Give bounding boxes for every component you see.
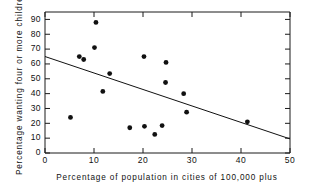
x-tick-label-50: 50 [285, 155, 295, 165]
x-axis-title: Percentage of population in cities of 10… [56, 173, 277, 182]
y-tick-label-80: 80 [31, 29, 41, 39]
data-point [107, 71, 112, 76]
data-point [142, 54, 147, 59]
data-point [160, 123, 165, 128]
plot-canvas: 0102030405060708090 01020304050 Percenta… [0, 0, 309, 190]
data-point [142, 124, 147, 129]
data-point [181, 91, 186, 96]
data-point [245, 119, 250, 124]
y-tick-label-70: 70 [31, 43, 41, 53]
data-point [184, 110, 189, 115]
y-tick-label-30: 30 [31, 103, 41, 113]
data-point [81, 57, 86, 62]
data-points-group [68, 20, 250, 137]
x-tick-label-0: 0 [42, 155, 47, 165]
data-point [94, 20, 99, 25]
data-point [92, 45, 97, 50]
scatter-plot-figure: 0102030405060708090 01020304050 Percenta… [0, 0, 309, 190]
y-tick-label-50: 50 [31, 73, 41, 83]
data-point [164, 60, 169, 65]
trend-line-group [45, 57, 290, 139]
y-tick-label-0: 0 [36, 147, 41, 157]
data-point [127, 125, 132, 130]
x-axis-tick-labels: 01020304050 [42, 155, 295, 165]
x-tick-label-20: 20 [138, 155, 148, 165]
y-tick-label-10: 10 [31, 132, 41, 142]
data-point [68, 115, 73, 120]
data-point [163, 80, 168, 85]
data-point [100, 89, 105, 94]
data-point [152, 132, 157, 137]
data-point [77, 54, 82, 59]
y-axis-title: Percentage wanting four or more children [15, 0, 24, 175]
y-tick-label-20: 20 [31, 118, 41, 128]
y-tick-label-40: 40 [31, 88, 41, 98]
x-tick-label-30: 30 [187, 155, 197, 165]
x-tick-label-10: 10 [89, 155, 99, 165]
y-axis-tick-labels: 0102030405060708090 [31, 14, 41, 158]
trend-line [45, 57, 290, 139]
x-tick-label-40: 40 [236, 155, 246, 165]
y-tick-label-90: 90 [31, 14, 41, 24]
y-tick-label-60: 60 [31, 58, 41, 68]
y-axis-ticks [45, 19, 290, 153]
